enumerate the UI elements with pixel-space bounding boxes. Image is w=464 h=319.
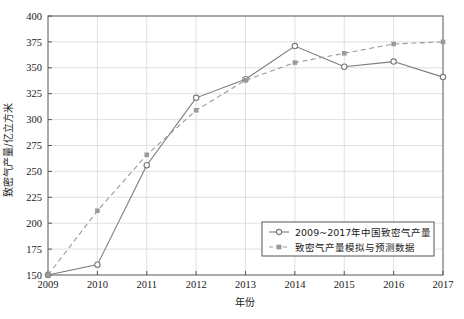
data-point-marker-square	[144, 153, 149, 158]
legend-marker-square-icon	[277, 245, 282, 250]
x-tick-label: 2012	[186, 279, 207, 290]
data-point-marker-circle	[391, 59, 396, 64]
data-point-marker-square	[441, 40, 446, 45]
y-tick-label: 375	[26, 37, 42, 48]
data-point-marker-square	[391, 42, 396, 47]
data-point-marker-square	[46, 273, 51, 278]
data-point-marker-circle	[292, 43, 297, 48]
data-point-marker-circle	[144, 162, 149, 167]
y-tick-label: 300	[26, 114, 42, 125]
data-point-marker-circle	[193, 95, 198, 100]
x-tick-label: 2016	[383, 279, 404, 290]
x-tick-label: 2014	[284, 279, 306, 290]
y-tick-label: 250	[26, 166, 42, 177]
line-chart: 150175200225250275300325350375400 200920…	[0, 0, 464, 319]
data-point-marker-square	[194, 108, 199, 113]
x-tick-label: 2017	[433, 279, 454, 290]
x-axis-title: 年份	[235, 296, 255, 308]
legend-label-forecast: 致密气产量模拟与预测数据	[295, 242, 415, 253]
x-tick-label: 2010	[87, 279, 108, 290]
data-point-marker-circle	[440, 74, 445, 79]
x-tick-label: 2009	[38, 279, 59, 290]
y-tick-label: 175	[26, 244, 42, 255]
data-point-marker-square	[95, 208, 100, 213]
chart-background	[0, 0, 464, 319]
y-tick-label: 200	[26, 218, 42, 229]
x-tick-label: 2013	[235, 279, 256, 290]
y-tick-label: 400	[26, 11, 42, 22]
legend-label-actual: 2009~2017年中国致密气产量	[295, 227, 431, 238]
data-point-marker-square	[243, 78, 248, 83]
x-tick-label: 2011	[136, 279, 157, 290]
legend: 2009~2017年中国致密气产量 致密气产量模拟与预测数据	[262, 222, 434, 256]
chart-container: 150175200225250275300325350375400 200920…	[0, 0, 464, 319]
data-point-marker-square	[342, 51, 347, 56]
data-point-marker-circle	[342, 64, 347, 69]
y-tick-label: 325	[26, 88, 42, 99]
data-point-marker-square	[293, 60, 298, 65]
data-point-marker-circle	[95, 262, 100, 267]
x-tick-label: 2015	[334, 279, 355, 290]
y-axis-title: 致密气产量/亿立方米	[2, 103, 14, 196]
y-tick-label: 275	[26, 140, 42, 151]
y-tick-label: 350	[26, 62, 42, 73]
y-tick-label: 225	[26, 192, 42, 203]
legend-marker-circle-icon	[276, 229, 281, 234]
